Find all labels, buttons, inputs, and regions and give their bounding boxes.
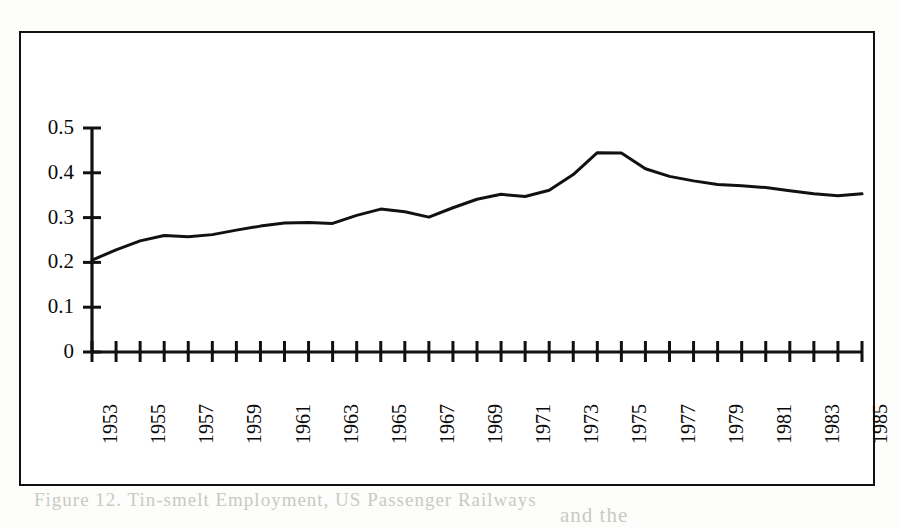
chart-axes [92,128,862,352]
x-tick-label: 1959 [244,404,264,444]
x-tick-label: 1981 [774,404,794,444]
x-tick-label: 1961 [293,404,313,444]
x-tick-label: 1955 [148,404,168,444]
chart-ticks [83,128,862,362]
x-tick-label: 1977 [678,404,698,444]
x-tick-label: 1953 [100,404,120,444]
x-tick-label: 1957 [196,404,216,444]
data-series-line [92,153,862,261]
figure-page: 00.10.20.30.40.5 19531955195719591961196… [0,0,899,527]
y-tick-label: 0.5 [20,117,74,138]
x-tick-label: 1969 [485,404,505,444]
y-tick-label: 0.2 [20,251,74,272]
x-tick-label: 1979 [726,404,746,444]
line-chart-svg [0,0,899,527]
x-tick-label: 1963 [341,404,361,444]
x-tick-label: 1975 [629,404,649,444]
y-tick-label: 0.4 [20,162,74,183]
y-tick-label: 0.1 [20,296,74,317]
x-tick-label: 1983 [822,404,842,444]
chart-plot-area: 00.10.20.30.40.5 19531955195719591961196… [0,0,899,527]
x-tick-label: 1965 [389,404,409,444]
x-tick-label: 1973 [581,404,601,444]
y-tick-label: 0.3 [20,207,74,228]
x-tick-label: 1967 [437,404,457,444]
x-tick-label: 1971 [533,404,553,444]
y-tick-label: 0 [20,341,74,362]
x-tick-label: 1985 [870,404,890,444]
